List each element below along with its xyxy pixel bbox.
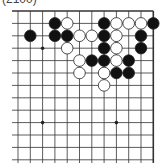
black-stone xyxy=(61,30,73,42)
white-stone xyxy=(111,18,123,30)
black-stone xyxy=(49,18,61,30)
white-stone xyxy=(61,42,73,54)
star-point xyxy=(115,121,119,125)
black-stone xyxy=(49,30,61,42)
white-stone xyxy=(123,18,135,30)
black-stone xyxy=(98,42,110,54)
black-stone xyxy=(135,42,147,54)
black-stone xyxy=(25,30,37,42)
white-stone xyxy=(74,67,86,79)
black-stone xyxy=(148,18,160,30)
white-stone xyxy=(111,42,123,54)
white-stone xyxy=(98,67,110,79)
black-stone xyxy=(98,18,110,30)
white-stone xyxy=(98,80,110,92)
black-stone xyxy=(135,30,147,42)
black-stone xyxy=(123,55,135,67)
black-stone xyxy=(98,55,110,67)
white-stone xyxy=(111,55,123,67)
black-stone xyxy=(123,67,135,79)
white-stone xyxy=(86,30,98,42)
white-stone xyxy=(111,30,123,42)
star-point xyxy=(41,46,45,50)
black-stone xyxy=(86,55,98,67)
star-point xyxy=(41,121,45,125)
black-stone xyxy=(98,30,110,42)
white-stone xyxy=(135,18,147,30)
white-stone xyxy=(74,55,86,67)
white-stone xyxy=(74,30,86,42)
go-board xyxy=(0,0,165,163)
black-stone xyxy=(111,67,123,79)
white-stone xyxy=(61,18,73,30)
